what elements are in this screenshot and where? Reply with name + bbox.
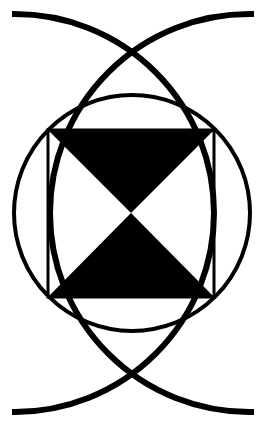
- background: [0, 0, 263, 426]
- geometric-symbol-diagram: [0, 0, 263, 426]
